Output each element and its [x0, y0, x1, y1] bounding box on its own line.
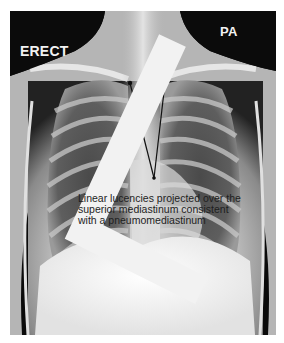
annotation-line: with a pneumomediastinum [78, 215, 276, 226]
left-side-marker-icon [10, 11, 276, 335]
annotation-text: Linear lucencies projected over the supe… [78, 193, 276, 226]
chest-xray-image: ERECT PA Linear lucencies projected over… [10, 11, 276, 335]
